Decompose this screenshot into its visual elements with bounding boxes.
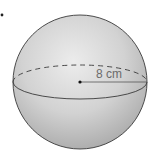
sphere-diagram: 8 cm xyxy=(0,0,154,164)
item-bullet-dot xyxy=(1,14,4,17)
radius-label: 8 cm xyxy=(96,67,122,81)
center-point xyxy=(78,80,81,83)
